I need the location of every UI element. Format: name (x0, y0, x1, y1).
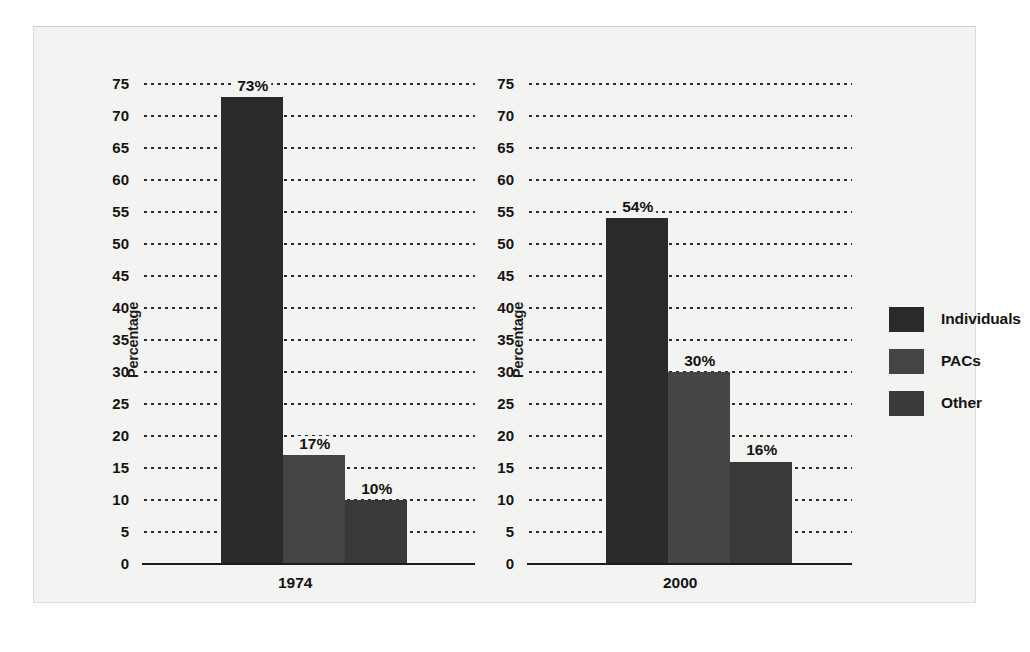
bar-value-label: 73% (234, 78, 271, 94)
x-axis-line (142, 563, 475, 565)
y-tick-label: 25 (95, 396, 129, 411)
legend: Individuals PACs Other (889, 298, 1030, 424)
y-tick-label: 30 (95, 364, 129, 379)
y-tick-label: 10 (480, 492, 514, 507)
y-tick-label: 35 (95, 332, 129, 347)
y-tick-label: 5 (95, 524, 129, 539)
y-tick-label: 75 (480, 76, 514, 91)
x-axis-line (527, 563, 852, 565)
bar-group-2000: 54% 30% 16% (542, 84, 852, 564)
x-axis-label-1974: 1974 (278, 574, 312, 592)
y-tick-label: 0 (480, 556, 514, 571)
y-tick-label: 15 (480, 460, 514, 475)
bar-fill (345, 500, 407, 564)
y-tick-label: 30 (480, 364, 514, 379)
y-tick-label: 45 (95, 268, 129, 283)
y-tick-label: 40 (95, 300, 129, 315)
legend-swatch-pacs (889, 349, 924, 374)
legend-item-individuals[interactable]: Individuals (889, 298, 1030, 340)
bar-2000-individuals[interactable]: 54% (606, 218, 668, 564)
y-tick-label: 65 (95, 140, 129, 155)
y-tick-label: 50 (480, 236, 514, 251)
bar-value-label: 17% (296, 436, 333, 452)
bar-fill (221, 97, 283, 564)
chart-page: Percentage 75 70 65 60 55 50 45 40 35 30… (0, 0, 1030, 652)
legend-item-other[interactable]: Other (889, 382, 1030, 424)
legend-label-individuals: Individuals (941, 310, 1021, 328)
y-tick-label: 15 (95, 460, 129, 475)
y-tick-label: 25 (480, 396, 514, 411)
bar-2000-pacs[interactable]: 30% (668, 372, 730, 564)
bar-value-label: 54% (619, 199, 656, 215)
bar-fill (606, 218, 668, 564)
figure-plate: Percentage 75 70 65 60 55 50 45 40 35 30… (33, 26, 976, 603)
y-tick-label: 55 (95, 204, 129, 219)
y-tick-label: 65 (480, 140, 514, 155)
bar-fill (730, 462, 792, 564)
y-tick-label: 40 (480, 300, 514, 315)
bar-1974-other[interactable]: 10% (345, 500, 407, 564)
bar-2000-other[interactable]: 16% (730, 462, 792, 564)
bar-1974-individuals[interactable]: 73% (221, 97, 283, 564)
y-tick-label: 20 (95, 428, 129, 443)
bar-fill (283, 455, 345, 564)
y-tick-label: 55 (480, 204, 514, 219)
y-tick-label: 70 (480, 108, 514, 123)
y-tick-label: 60 (480, 172, 514, 187)
y-tick-label: 35 (480, 332, 514, 347)
bar-fill (668, 372, 730, 564)
legend-swatch-other (889, 391, 924, 416)
bar-1974-pacs[interactable]: 17% (283, 455, 345, 564)
y-tick-label: 0 (95, 556, 129, 571)
x-axis-label-2000: 2000 (663, 574, 697, 592)
bar-group-1974: 73% 17% 10% (157, 84, 475, 564)
legend-label-pacs: PACs (941, 352, 981, 370)
plot-area-2000: 75 70 65 60 55 50 45 40 35 30 25 20 15 1… (542, 84, 852, 564)
bar-value-label: 16% (743, 442, 780, 458)
legend-label-other: Other (941, 394, 982, 412)
legend-swatch-individuals (889, 307, 924, 332)
y-tick-label: 5 (480, 524, 514, 539)
y-tick-label: 50 (95, 236, 129, 251)
legend-item-pacs[interactable]: PACs (889, 340, 1030, 382)
plot-area-1974: 75 70 65 60 55 50 45 40 35 30 25 20 15 1… (157, 84, 475, 564)
y-tick-label: 60 (95, 172, 129, 187)
bar-value-label: 30% (681, 353, 718, 369)
y-tick-label: 45 (480, 268, 514, 283)
y-tick-label: 70 (95, 108, 129, 123)
chart-panel-1974: Percentage 75 70 65 60 55 50 45 40 35 30… (95, 84, 475, 596)
y-tick-label: 20 (480, 428, 514, 443)
bar-value-label: 10% (358, 481, 395, 497)
chart-panel-2000: Percentage 75 70 65 60 55 50 45 40 35 30… (480, 84, 852, 596)
y-tick-label: 75 (95, 76, 129, 91)
y-tick-label: 10 (95, 492, 129, 507)
